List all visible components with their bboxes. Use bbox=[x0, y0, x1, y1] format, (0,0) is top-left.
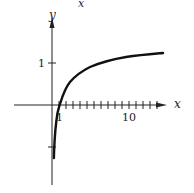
y-axis-label: y bbox=[48, 8, 56, 22]
x-axis-arrow-icon bbox=[156, 103, 167, 108]
x-axis-label: x bbox=[174, 97, 181, 111]
caption-fragment: x bbox=[78, 0, 85, 10]
y-tick-label-1: 1 bbox=[38, 57, 45, 70]
ln-function-plot: x y x 1 10 1 bbox=[0, 0, 194, 193]
x-tick-label-10: 10 bbox=[122, 111, 136, 124]
